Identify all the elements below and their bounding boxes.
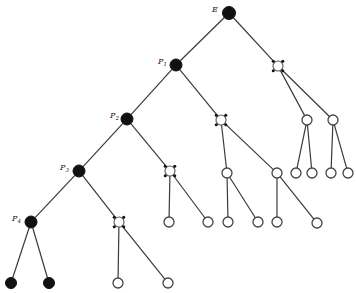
tree-edge-P3-R4 (83, 176, 116, 218)
dotted-circle-icon (216, 115, 226, 125)
corner-dot-icon (272, 69, 275, 72)
filled-circle-icon (44, 278, 55, 289)
tree-edge-R2b-R2b2 (280, 177, 314, 219)
open-circle-icon (272, 217, 282, 227)
tree-edge-R3-R3b (173, 175, 205, 218)
corner-dot-icon (281, 60, 284, 63)
corner-dot-icon (272, 60, 275, 63)
corner-dot-icon (281, 69, 284, 72)
tree-node-P2 (121, 113, 133, 125)
corner-dot-icon (113, 225, 116, 228)
filled-circle-icon (6, 278, 17, 289)
open-circle-icon (307, 168, 317, 178)
corner-dot-icon (122, 225, 125, 228)
filled-circle-icon (170, 59, 182, 71)
tree-edge-P1-R2 (180, 70, 218, 116)
tree-node-R1b (328, 115, 338, 125)
open-circle-icon (223, 217, 233, 227)
tree-edge-R2-R2a (222, 125, 227, 168)
corner-dot-icon (224, 114, 227, 117)
tree-edge-R4-R4b (122, 226, 165, 279)
tree-node-R3a (164, 217, 174, 227)
tree-edge-R1a-R1a1 (297, 125, 306, 168)
open-circle-icon (326, 168, 336, 178)
tree-edge-P4-P4a (13, 228, 29, 278)
node-label-P4: P4 (11, 214, 21, 224)
tree-edge-R1-R1a (280, 70, 304, 115)
tree-node-P3 (73, 165, 85, 177)
open-circle-icon (272, 168, 282, 178)
tree-node-P4a (6, 278, 17, 289)
tree-node-R3 (164, 165, 177, 178)
corner-dot-icon (215, 123, 218, 126)
tree-node-R1b1 (326, 168, 336, 178)
tree-node-R2a1 (223, 217, 233, 227)
tree-node-R1b2 (343, 168, 353, 178)
tree-edge-R1b-R1b2 (334, 125, 346, 168)
open-circle-icon (222, 168, 232, 178)
open-circle-icon (302, 115, 312, 125)
open-circle-icon (343, 168, 353, 178)
tree-node-P4b (44, 278, 55, 289)
corner-dot-icon (224, 123, 227, 126)
tree-node-R2 (215, 114, 228, 127)
tree-edges (13, 18, 347, 280)
node-label-E: E (211, 5, 218, 14)
tree-node-R2b (272, 168, 282, 178)
tree-edge-R2-R2b (225, 123, 274, 169)
tree-node-R2b2 (312, 218, 322, 228)
tree-edge-R1-R1b (282, 70, 330, 117)
tree-edge-P2-R3 (131, 124, 167, 168)
tree-node-P1 (170, 59, 182, 71)
tree-edge-R2a-R2a2 (230, 177, 256, 218)
open-circle-icon (113, 278, 123, 288)
tree-node-R2b1 (272, 217, 282, 227)
corner-dot-icon (173, 174, 176, 177)
dotted-circle-icon (114, 217, 124, 227)
tree-node-R1 (272, 60, 285, 73)
tree-node-R1a (302, 115, 312, 125)
tree-edge-R1b-R1b1 (331, 125, 333, 168)
open-circle-icon (164, 217, 174, 227)
open-circle-icon (203, 217, 213, 227)
open-circle-icon (291, 168, 301, 178)
tree-edge-P3-P4 (35, 175, 75, 217)
tree-edge-P1-P2 (131, 69, 172, 114)
corner-dot-icon (215, 114, 218, 117)
tree-node-R1a2 (307, 168, 317, 178)
node-label-P2: P2 (109, 111, 119, 121)
tree-edge-E-P1 (180, 18, 224, 61)
open-circle-icon (163, 278, 173, 288)
open-circle-icon (312, 218, 322, 228)
node-label-P1: P1 (157, 57, 167, 67)
tree-node-R1a1 (291, 168, 301, 178)
tree-edge-R1a-R1a2 (307, 125, 311, 168)
open-circle-icon (328, 115, 338, 125)
dotted-circle-icon (165, 166, 175, 176)
filled-circle-icon (25, 216, 37, 228)
corner-dot-icon (164, 165, 167, 168)
tree-edge-E-R1 (233, 18, 274, 63)
tree-node-R4b (163, 278, 173, 288)
tree-diagram: EP1P2P3P4 (0, 0, 356, 293)
tree-node-R4 (113, 216, 126, 229)
filled-circle-icon (73, 165, 85, 177)
tree-node-P4 (25, 216, 37, 228)
tree-node-R2a2 (253, 217, 263, 227)
tree-node-E (223, 7, 236, 20)
tree-node-R2a (222, 168, 232, 178)
node-label-P3: P3 (59, 163, 69, 173)
open-circle-icon (253, 217, 263, 227)
tree-edge-R4-R4a (118, 227, 119, 278)
tree-edge-P4-P4b (33, 228, 48, 278)
corner-dot-icon (113, 216, 116, 219)
corner-dot-icon (164, 174, 167, 177)
dotted-circle-icon (273, 61, 283, 71)
tree-node-R3b (203, 217, 213, 227)
tree-edge-R2a-R2a1 (227, 178, 228, 217)
tree-edge-R3-R3a (169, 176, 170, 217)
tree-node-R4a (113, 278, 123, 288)
corner-dot-icon (122, 216, 125, 219)
filled-circle-icon (223, 7, 236, 20)
filled-circle-icon (121, 113, 133, 125)
